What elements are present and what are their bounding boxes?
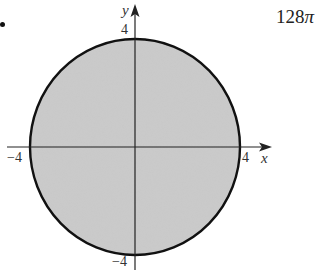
x-tick-neg: −4 (7, 150, 22, 166)
answer-number: 128 (276, 6, 305, 27)
pi-symbol: π (305, 6, 315, 27)
x-axis-label: x (261, 150, 268, 167)
region-plot (0, 0, 328, 270)
y-tick-pos: 4 (121, 22, 128, 38)
y-tick-neg: −4 (112, 254, 127, 270)
answer-value: 128π (276, 6, 314, 28)
x-tick-pos: 4 (242, 150, 249, 166)
y-axis-label: y (122, 2, 129, 19)
